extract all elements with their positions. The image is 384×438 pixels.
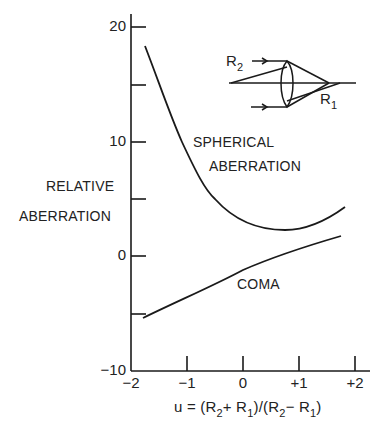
- y-tick-label-20: 20: [86, 17, 126, 34]
- spherical-label-line1: SPHERICAL: [193, 134, 274, 150]
- y-axis-label-line1: RELATIVE: [46, 178, 114, 194]
- y-ticks: [131, 27, 146, 314]
- x-tick-label-neg2: −2: [116, 374, 146, 391]
- y-tick-label-10: 10: [86, 132, 126, 149]
- spherical-label-line2: ABERRATION: [209, 158, 301, 174]
- x-axis-label: u = (R2+ R1)/(R2− R1): [174, 398, 322, 415]
- coma-label: COMA: [237, 276, 280, 292]
- inset-label-r2: R2: [226, 52, 243, 69]
- y-axis-label-line2: ABERRATION: [19, 208, 111, 224]
- x-ticks: [187, 356, 355, 371]
- inset-label-r1: R1: [320, 90, 337, 107]
- y-tick-label-0: 0: [86, 246, 126, 263]
- x-tick-label-pos1: +1: [284, 374, 314, 391]
- x-tick-label-0: 0: [228, 374, 258, 391]
- x-tick-label-neg1: −1: [172, 374, 202, 391]
- x-tick-label-pos2: +2: [340, 374, 370, 391]
